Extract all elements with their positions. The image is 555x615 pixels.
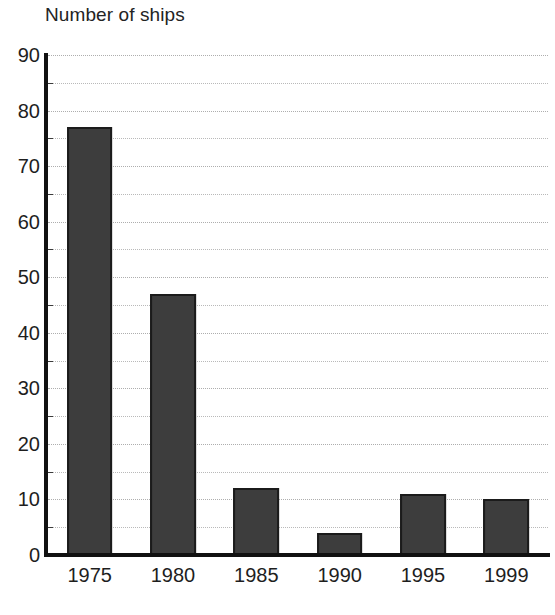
- chart-title: Number of ships: [45, 4, 185, 26]
- x-axis-tick-label-1990: 1990: [298, 564, 381, 586]
- bar-slot: [298, 55, 381, 555]
- bar-slot: [465, 55, 548, 555]
- y-axis-tick-label: 20: [0, 434, 40, 454]
- y-axis-tick-mark: [48, 194, 53, 195]
- y-axis-tick-label: 60: [0, 212, 40, 232]
- bar-1995[interactable]: [400, 494, 446, 555]
- y-axis-tick-label: 0: [0, 545, 40, 565]
- y-axis-tick-label: 40: [0, 323, 40, 343]
- y-axis-tick-label: 70: [0, 156, 40, 176]
- x-axis-tick-label-1995: 1995: [381, 564, 464, 586]
- bar-1975[interactable]: [67, 127, 113, 555]
- y-axis-tick-mark: [48, 138, 53, 139]
- y-axis-tick-label: 80: [0, 101, 40, 121]
- y-axis-tick-label: 50: [0, 267, 40, 287]
- bar-chart-figure: Number of ships 0102030405060708090 1975…: [0, 0, 555, 615]
- bar-1999[interactable]: [483, 499, 529, 555]
- bar-slot: [381, 55, 464, 555]
- y-axis-tick-mark: [48, 472, 53, 473]
- x-axis-tick-label-1999: 1999: [465, 564, 548, 586]
- x-axis-line: [44, 553, 550, 557]
- bar-slot: [48, 55, 131, 555]
- y-axis-tick-mark: [48, 83, 53, 84]
- y-axis-tick-label: 30: [0, 378, 40, 398]
- bar-1990[interactable]: [317, 533, 363, 555]
- x-axis-tick-label-1980: 1980: [131, 564, 214, 586]
- y-axis-tick-mark: [48, 361, 53, 362]
- bar-slot: [215, 55, 298, 555]
- y-axis-tick-mark: [48, 527, 53, 528]
- y-axis-tick-label: 10: [0, 489, 40, 509]
- y-axis-tick-mark: [48, 305, 53, 306]
- y-axis-tick-mark: [48, 416, 53, 417]
- y-axis-tick-label: 90: [0, 45, 40, 65]
- y-axis-tick-mark: [48, 249, 53, 250]
- plot-area: [48, 55, 548, 555]
- y-axis-tick-labels: 0102030405060708090: [0, 0, 40, 615]
- bar-slot: [131, 55, 214, 555]
- bar-1980[interactable]: [150, 294, 196, 555]
- x-axis-tick-label-1985: 1985: [215, 564, 298, 586]
- x-axis-tick-label-1975: 1975: [48, 564, 131, 586]
- bar-1985[interactable]: [233, 488, 279, 555]
